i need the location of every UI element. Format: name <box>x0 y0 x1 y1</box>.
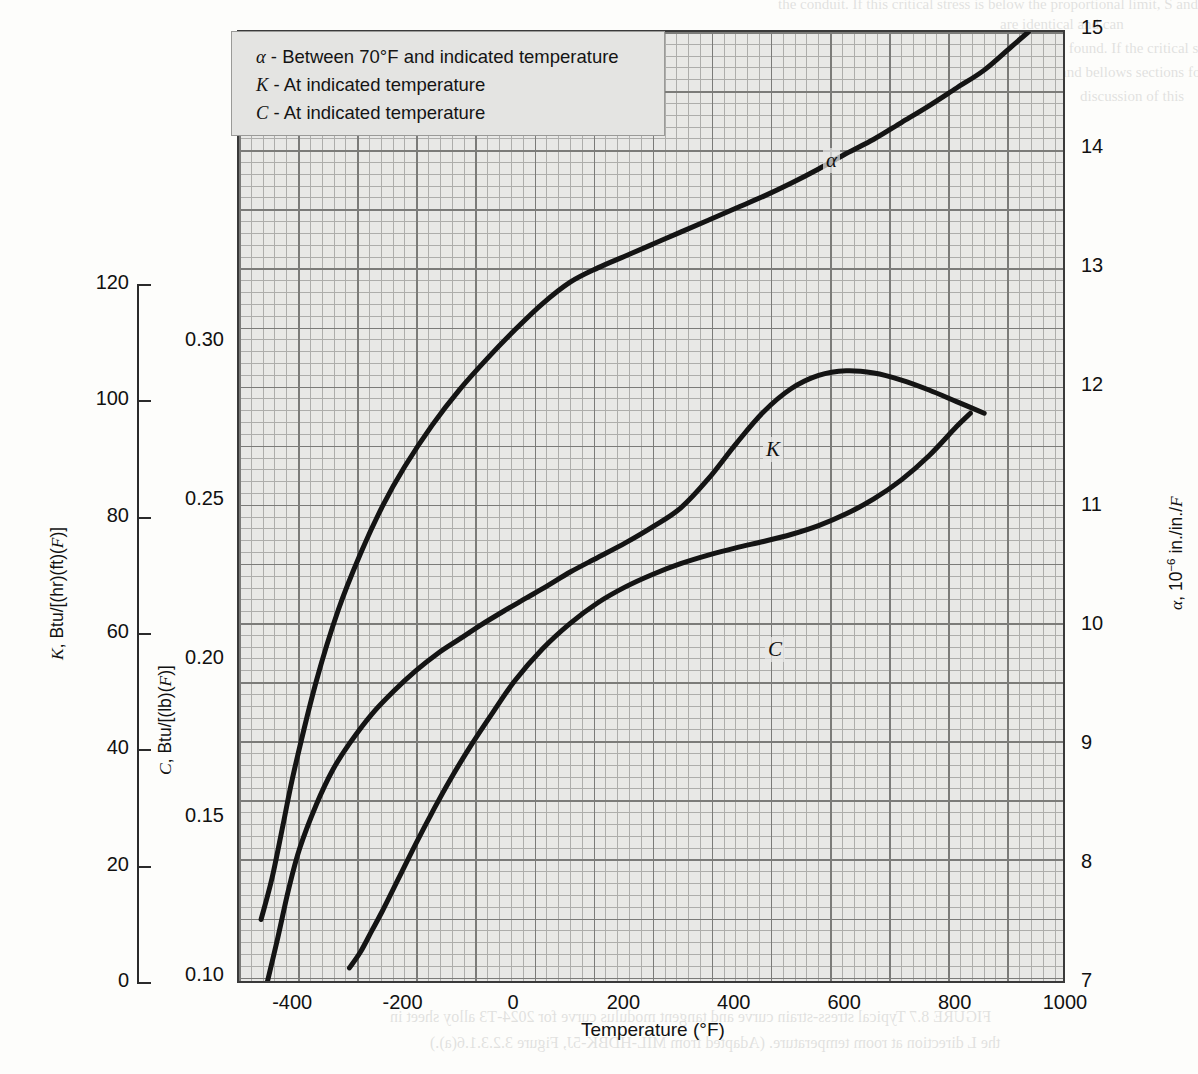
axis-x-tick-label: -200 <box>358 991 448 1014</box>
axis-title-alpha-exp: −6 <box>1165 558 1177 571</box>
axis-title-x-main: Temperature ( <box>581 1019 699 1040</box>
axis-k-tick <box>137 284 151 286</box>
axis-title-k-rest: , Btu/[(hr)(ft)( <box>47 548 67 648</box>
axis-title-c-end: )] <box>155 665 175 676</box>
axis-title-k-end: )] <box>47 527 67 538</box>
axis-c-tick-label: 0.25 <box>136 487 224 510</box>
axis-k-tick-label: 120 <box>69 271 129 294</box>
axis-alpha-tick-label: 12 <box>1081 373 1121 396</box>
legend-row-c: C - At indicated temperature <box>256 99 664 127</box>
axis-c-tick-label: 0.20 <box>136 646 224 669</box>
plot-area <box>237 30 1065 983</box>
axis-alpha-tick-label: 10 <box>1081 612 1121 635</box>
axis-alpha-tick-label: 7 <box>1081 969 1121 992</box>
axis-title-c: C, Btu/[(lb)(F)] <box>155 665 176 775</box>
axis-title-alpha-rest: , 10 <box>1166 572 1186 601</box>
curve-label-c: C <box>765 637 785 662</box>
axis-k-tick-label: 60 <box>69 620 129 643</box>
figure-thermal-properties: the conduit. If this critical stress is … <box>0 0 1198 1074</box>
axis-k-tick-label: 100 <box>69 387 129 410</box>
legend-text-c: - At indicated temperature <box>268 102 485 123</box>
axis-title-x-close: ) <box>719 1019 725 1040</box>
axis-title-alpha: α, 10−6 in./in./F <box>1165 496 1187 610</box>
axis-alpha-tick-label: 15 <box>1081 16 1121 39</box>
legend-symbol-c: C <box>256 103 268 123</box>
axis-k-tick-label: 20 <box>69 853 129 876</box>
legend-symbol-k: K <box>256 75 268 95</box>
bleed-text-top-5: discussion of this <box>1080 88 1184 105</box>
axis-k-tick-label: 0 <box>69 969 129 992</box>
legend-box: α - Between 70°F and indicated temperatu… <box>231 31 665 136</box>
axis-k-tick-label: 40 <box>69 736 129 759</box>
curve-k <box>267 371 985 983</box>
bleed-text-top-3: is found. If the critical stress is abov… <box>1055 40 1198 57</box>
legend-text-alpha: - Between 70°F and indicated temperature <box>266 46 619 67</box>
axis-alpha-tick-label: 11 <box>1081 493 1121 516</box>
axis-title-alpha-symbol: α <box>1166 601 1186 610</box>
axis-title-alpha-unit: in./in./ <box>1166 507 1186 559</box>
axis-alpha-tick-label: 14 <box>1081 135 1121 158</box>
axis-title-c-f: F <box>155 676 175 687</box>
data-curves <box>239 32 1065 983</box>
legend-text-k: - At indicated temperature <box>268 74 485 95</box>
axis-title-c-symbol: C <box>155 763 175 775</box>
axis-x-tick-label: 1000 <box>1020 991 1110 1014</box>
axis-title-x-unit: °F <box>699 1019 718 1040</box>
axis-k-tick-label: 80 <box>69 504 129 527</box>
axis-c-tick-label: 0.15 <box>136 804 224 827</box>
axis-alpha-tick-label: 13 <box>1081 254 1121 277</box>
axis-x-tick-label: 0 <box>468 991 558 1014</box>
curve-c <box>349 413 970 968</box>
axis-k-tick <box>137 517 151 519</box>
axis-title-k-symbol: K <box>47 648 67 660</box>
axis-alpha-tick-label: 8 <box>1081 850 1121 873</box>
axis-x-tick-label: 800 <box>910 991 1000 1014</box>
axis-k-tick <box>137 749 151 751</box>
axis-k-tick <box>137 866 151 868</box>
legend-row-k: K - At indicated temperature <box>256 71 664 99</box>
axis-k-tick <box>137 633 151 635</box>
axis-k-tick <box>137 400 151 402</box>
bleed-text-top: the conduit. If this critical stress is … <box>778 0 1198 13</box>
curve-label-alpha: α <box>823 148 840 173</box>
axis-title-c-rest: , Btu/[(lb)( <box>155 686 175 763</box>
curve-label-k: K <box>763 437 783 462</box>
axis-x-tick-label: 600 <box>799 991 889 1014</box>
axis-title-alpha-f: F <box>1166 496 1186 507</box>
curve-alpha <box>261 32 1028 919</box>
axis-title-k-f: F <box>47 537 67 548</box>
axis-x-tick-label: -400 <box>247 991 337 1014</box>
axis-c-tick-label: 0.10 <box>136 963 224 986</box>
axis-title-x: Temperature (°F) <box>581 1019 725 1041</box>
axis-x-tick-label: 400 <box>689 991 779 1014</box>
axis-alpha-tick-label: 9 <box>1081 731 1121 754</box>
axis-title-k: K, Btu/[(hr)(ft)(F)] <box>47 527 68 660</box>
axis-c-tick-label: 0.30 <box>136 328 224 351</box>
legend-row-alpha: α - Between 70°F and indicated temperatu… <box>256 43 664 71</box>
axis-x-tick-label: 200 <box>578 991 668 1014</box>
bleed-text-top-4: and bellows sections for <box>1060 64 1198 81</box>
legend-symbol-alpha: α <box>256 47 266 67</box>
